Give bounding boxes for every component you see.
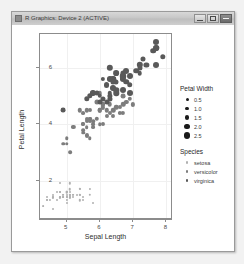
- data-point: [101, 77, 105, 81]
- gridline-horizontal: [40, 124, 171, 125]
- legend-species-swatch: [180, 161, 194, 163]
- y-tick-label: 4: [49, 120, 52, 126]
- data-point: [52, 196, 54, 198]
- data-point: [65, 137, 69, 141]
- legend-size-row: 2.0: [180, 122, 213, 131]
- legend-species-row: setosa: [180, 158, 218, 167]
- legend-size-swatch: [180, 98, 194, 101]
- y-axis-line: [39, 33, 40, 219]
- legend-size-label: 1.5: [194, 115, 202, 121]
- legend-species-swatch: [180, 170, 194, 172]
- legend-species-row: virginica: [180, 176, 218, 185]
- legend-size-row: 1.5: [180, 113, 213, 122]
- data-point: [82, 196, 84, 198]
- legend-size-title: Petal Width: [180, 85, 213, 92]
- x-tick-label: 5: [64, 224, 67, 230]
- data-point: [69, 191, 71, 193]
- legend-size-label: 1.0: [194, 106, 202, 112]
- x-tick: [132, 219, 133, 222]
- data-point: [84, 96, 89, 101]
- x-tick-label: 8: [164, 224, 167, 230]
- data-point: [85, 125, 89, 129]
- data-point: [79, 188, 81, 190]
- gridline-vertical: [133, 34, 134, 218]
- data-point: [144, 62, 149, 67]
- data-point: [92, 202, 94, 204]
- data-point: [127, 90, 133, 96]
- data-point: [94, 116, 98, 120]
- maximize-icon[interactable]: [207, 14, 219, 23]
- y-tick: [36, 67, 39, 68]
- data-point: [137, 65, 142, 70]
- legend-size-swatch: [180, 132, 194, 138]
- data-point: [101, 122, 105, 126]
- data-point: [124, 100, 128, 104]
- app-icon: [15, 15, 22, 22]
- gridline-vertical: [166, 34, 167, 218]
- r-graphics-window: R Graphics: Device 2 (ACTIVE) 5678246 Se…: [11, 11, 235, 252]
- data-point: [160, 54, 165, 59]
- y-tick-label: 2: [49, 177, 52, 183]
- legend-species-row: versicolor: [180, 167, 218, 176]
- data-point: [46, 199, 48, 201]
- legend-color-title: Species: [180, 148, 218, 155]
- legend-size-label: 2.5: [194, 133, 202, 139]
- data-point: [59, 182, 61, 184]
- data-point: [56, 199, 58, 201]
- data-point: [94, 91, 99, 96]
- data-point: [111, 114, 115, 118]
- x-axis-line: [39, 219, 172, 220]
- gridline-vertical: [100, 34, 101, 218]
- minimize-icon[interactable]: [194, 14, 206, 23]
- legend-size-swatch: [180, 107, 194, 111]
- data-point: [52, 194, 54, 196]
- data-point: [76, 194, 78, 196]
- legend-species-label: setosa: [194, 160, 210, 166]
- y-tick: [36, 123, 39, 124]
- data-point: [137, 71, 142, 76]
- data-point: [66, 194, 68, 196]
- data-point: [121, 102, 125, 106]
- data-point: [52, 208, 54, 210]
- data-point: [69, 194, 71, 196]
- close-icon[interactable]: [220, 14, 232, 23]
- data-point: [127, 82, 133, 88]
- data-point: [72, 194, 74, 196]
- data-point: [69, 182, 71, 184]
- legend-size-label: 2.0: [194, 124, 202, 130]
- legend-species-swatch: [180, 179, 194, 181]
- data-point: [79, 193, 81, 195]
- data-point: [120, 87, 126, 93]
- legend-size-label: 0.5: [194, 97, 202, 103]
- y-axis-title: Petal Length: [18, 95, 25, 165]
- data-point: [61, 108, 66, 113]
- legend-size-row: 2.5: [180, 131, 213, 140]
- data-point: [88, 108, 92, 112]
- data-point: [62, 194, 64, 196]
- data-point: [104, 82, 110, 88]
- x-tick-label: 6: [97, 224, 100, 230]
- data-point: [42, 205, 44, 207]
- data-point: [121, 94, 126, 99]
- data-point: [111, 79, 116, 84]
- data-point: [72, 196, 74, 198]
- data-point: [65, 190, 68, 193]
- data-point: [71, 125, 75, 129]
- window-title: R Graphics: Device 2 (ACTIVE): [25, 14, 188, 23]
- window-controls: [194, 14, 232, 23]
- gridline-horizontal: [40, 181, 171, 182]
- data-point: [89, 188, 91, 190]
- legend-size-row: 0.5: [180, 95, 213, 104]
- y-tick-label: 6: [49, 64, 52, 70]
- legend-size-swatch: [180, 124, 194, 129]
- data-point: [79, 199, 81, 201]
- data-point: [59, 191, 61, 193]
- window-titlebar[interactable]: R Graphics: Device 2 (ACTIVE): [12, 12, 234, 26]
- x-axis-title: Sepal Length: [39, 233, 172, 240]
- data-point: [107, 65, 113, 71]
- scatter-plot: 5678246 Sepal Length Petal Length Petal …: [12, 25, 234, 250]
- data-point: [153, 62, 159, 68]
- data-point: [97, 99, 102, 104]
- legend-species: Species setosaversicolorvirginica: [180, 148, 218, 185]
- plot-panel: [39, 33, 172, 219]
